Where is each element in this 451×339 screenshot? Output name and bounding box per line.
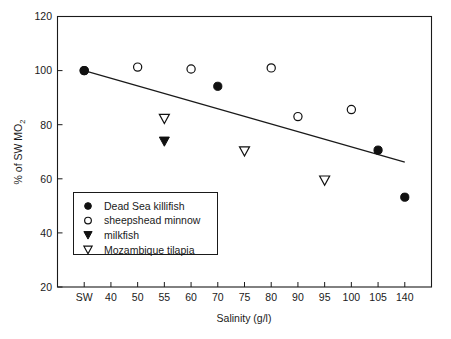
y-axis-title-subscript: 2 <box>18 120 27 124</box>
x-tick-label-70: 70 <box>212 291 224 303</box>
point-dead-sea-killifish-105 <box>374 146 382 154</box>
point-sheepshead-minnow-60 <box>187 65 195 73</box>
y-tick-label-20: 20 <box>40 281 52 293</box>
point-sheepshead-minnow-90 <box>294 112 302 120</box>
x-tick-label-55: 55 <box>159 291 171 303</box>
y-tick-label-60: 60 <box>40 173 52 185</box>
legend-label-dead-sea-killifish: Dead Sea killifish <box>104 200 185 212</box>
legend-label-milkfish: milkfish <box>104 229 139 241</box>
y-tick-label-100: 100 <box>34 64 52 76</box>
legend-label-mozambique-tilapia: Mozambique tilapia <box>104 244 195 256</box>
scatter-plot-svg: 120 100 80 60 40 20 % of SW MO2 SW405055… <box>0 0 451 339</box>
legend-marker-dead-sea-killifish <box>85 203 92 210</box>
y-tick-label-40: 40 <box>40 227 52 239</box>
x-tick-label-40: 40 <box>105 291 117 303</box>
y-tick-label-120: 120 <box>34 10 52 22</box>
point-dead-sea-killifish-SW <box>80 67 88 75</box>
x-tick-label-105: 105 <box>369 291 387 303</box>
chart-figure: 120 100 80 60 40 20 % of SW MO2 SW405055… <box>0 0 451 339</box>
legend-label-sheepshead-minnow: sheepshead minnow <box>104 214 201 226</box>
legend: Dead Sea killifishsheepshead minnowmilkf… <box>74 193 218 256</box>
point-sheepshead-minnow-100 <box>347 105 355 113</box>
point-dead-sea-killifish-140 <box>401 193 409 201</box>
x-axis-title: Salinity (g/l) <box>217 312 272 324</box>
point-sheepshead-minnow-50 <box>134 63 142 71</box>
y-axis-title: % of SW MO2 <box>12 120 27 185</box>
x-tick-label-90: 90 <box>292 291 304 303</box>
y-axis-title-main: % of SW MO <box>12 124 24 185</box>
svg-text:% of SW MO2: % of SW MO2 <box>12 120 27 185</box>
point-dead-sea-killifish-70 <box>214 82 222 90</box>
point-sheepshead-minnow-80 <box>267 64 275 72</box>
x-tick-label-50: 50 <box>132 291 144 303</box>
x-tick-label-100: 100 <box>343 291 361 303</box>
x-tick-label-60: 60 <box>185 291 197 303</box>
x-tick-label-140: 140 <box>396 291 414 303</box>
x-tick-label-80: 80 <box>265 291 277 303</box>
x-tick-label-SW: SW <box>76 291 93 303</box>
x-tick-label-95: 95 <box>319 291 331 303</box>
legend-marker-sheepshead-minnow <box>85 217 92 224</box>
y-tick-label-80: 80 <box>40 119 52 131</box>
x-tick-label-75: 75 <box>239 291 251 303</box>
